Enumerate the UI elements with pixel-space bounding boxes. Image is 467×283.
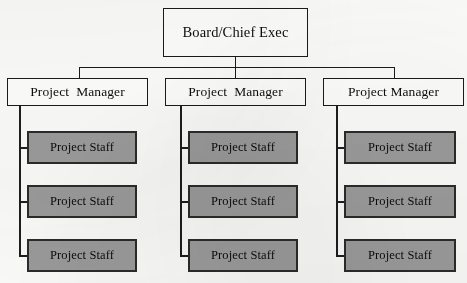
node-project-staff-2-2[interactable]: Project Staff [188,185,298,218]
node-project-staff-3-2[interactable]: Project Staff [344,185,456,218]
node-project-manager-2-word2: Manager [234,84,283,100]
node-project-staff-3-1-label: Project Staff [368,140,432,155]
node-project-staff-3-3[interactable]: Project Staff [344,239,456,272]
org-chart-canvas: Board/Chief Exec Project Manager Project… [0,0,467,283]
node-project-manager-3-word2: Manager [390,84,439,100]
node-project-staff-2-3-label: Project Staff [211,248,275,263]
node-project-staff-1-3-label: Project Staff [50,248,114,263]
node-project-staff-1-2-label: Project Staff [50,194,114,209]
connector-spine-branch-3 [336,106,338,257]
node-project-manager-3-word1: Project [348,84,387,100]
node-project-staff-3-2-label: Project Staff [368,194,432,209]
node-project-staff-2-3[interactable]: Project Staff [188,239,298,272]
node-project-manager-1-word2: Manager [76,84,125,100]
node-project-staff-1-1[interactable]: Project Staff [27,131,137,164]
node-project-manager-2[interactable]: Project Manager [165,78,306,106]
node-project-manager-3[interactable]: Project Manager [323,78,464,106]
node-project-staff-3-1[interactable]: Project Staff [344,131,456,164]
connector-spine-branch-2 [180,106,182,257]
node-board-chief-exec[interactable]: Board/Chief Exec [163,8,308,57]
node-project-staff-2-1[interactable]: Project Staff [188,131,298,164]
node-project-staff-1-3[interactable]: Project Staff [27,239,137,272]
connector-spine-branch-1 [19,106,21,257]
node-project-staff-2-2-label: Project Staff [211,194,275,209]
node-project-staff-2-1-label: Project Staff [211,140,275,155]
node-project-staff-1-2[interactable]: Project Staff [27,185,137,218]
node-project-staff-3-3-label: Project Staff [368,248,432,263]
node-project-manager-1[interactable]: Project Manager [7,78,148,106]
node-board-chief-exec-label: Board/Chief Exec [183,24,289,41]
node-project-manager-2-word1: Project [188,84,227,100]
node-project-staff-1-1-label: Project Staff [50,140,114,155]
connector-manager-bus [79,67,395,68]
node-project-manager-1-word1: Project [30,84,69,100]
